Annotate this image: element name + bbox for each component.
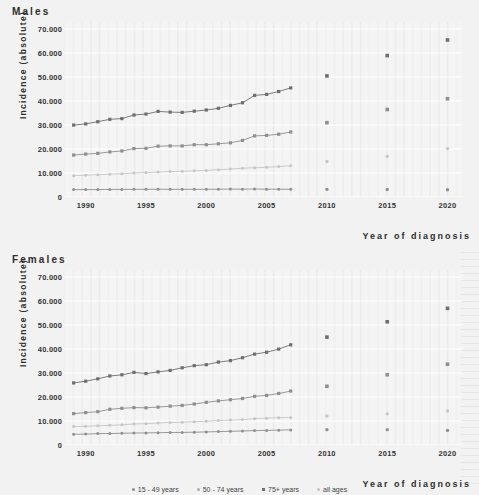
data-point-marker bbox=[446, 362, 450, 366]
x-tick-label: 1990 bbox=[77, 201, 95, 210]
legend-marker-dot-icon bbox=[197, 488, 200, 491]
data-point-marker bbox=[120, 407, 123, 410]
data-point-marker bbox=[156, 370, 159, 373]
data-point-marker bbox=[84, 433, 87, 436]
data-point-marker bbox=[385, 54, 389, 58]
data-point-marker bbox=[217, 430, 220, 433]
data-point-marker bbox=[386, 412, 389, 415]
legend-label: 15 - 49 years bbox=[138, 486, 179, 493]
data-point-marker bbox=[241, 101, 244, 104]
data-point-marker bbox=[265, 417, 268, 420]
data-point-marker bbox=[205, 363, 208, 366]
data-point-marker bbox=[72, 174, 75, 177]
plot-svg-females bbox=[64, 270, 462, 445]
data-point-marker bbox=[241, 356, 244, 359]
data-point-marker bbox=[205, 430, 208, 433]
data-point-marker bbox=[446, 38, 450, 42]
y-tick-label: 30.000 bbox=[6, 369, 62, 378]
data-point-marker bbox=[289, 130, 292, 133]
plot-area-males bbox=[64, 22, 462, 197]
data-point-marker bbox=[84, 411, 87, 414]
data-point-marker bbox=[132, 188, 135, 191]
data-point-marker bbox=[229, 419, 232, 422]
data-point-marker bbox=[169, 111, 172, 114]
legend-marker-dot-icon bbox=[317, 488, 320, 491]
data-point-marker bbox=[253, 166, 256, 169]
data-point-marker bbox=[446, 429, 449, 432]
data-point-marker bbox=[253, 417, 256, 420]
data-point-marker bbox=[96, 173, 99, 176]
data-point-marker bbox=[217, 419, 220, 422]
legend-item[interactable]: 50 - 74 years bbox=[197, 486, 244, 493]
x-tick-label: 2010 bbox=[318, 449, 336, 458]
data-point-marker bbox=[205, 169, 208, 172]
x-tick-label: 2005 bbox=[258, 449, 276, 458]
data-point-marker bbox=[217, 168, 220, 171]
data-point-marker bbox=[265, 188, 268, 191]
data-point-marker bbox=[253, 429, 256, 432]
data-point-marker bbox=[193, 143, 196, 146]
data-point-marker bbox=[265, 166, 268, 169]
data-point-marker bbox=[132, 371, 135, 374]
data-point-marker bbox=[96, 152, 99, 155]
data-point-marker bbox=[108, 424, 111, 427]
data-point-marker bbox=[84, 122, 87, 125]
series-15-49-years bbox=[72, 187, 449, 191]
data-point-marker bbox=[181, 111, 184, 114]
data-point-marker bbox=[265, 134, 268, 137]
data-point-marker bbox=[96, 432, 99, 435]
data-point-marker bbox=[157, 431, 160, 434]
legend-item[interactable]: all ages bbox=[317, 486, 347, 493]
data-point-marker bbox=[446, 97, 450, 101]
data-point-marker bbox=[217, 399, 220, 402]
data-point-marker bbox=[289, 428, 292, 431]
data-point-marker bbox=[446, 307, 450, 311]
data-point-marker bbox=[169, 188, 172, 191]
x-tick-label: 2020 bbox=[439, 201, 457, 210]
data-point-marker bbox=[144, 406, 147, 409]
data-point-marker bbox=[229, 359, 232, 362]
data-point-marker bbox=[241, 188, 244, 191]
data-point-marker bbox=[120, 373, 123, 376]
data-point-marker bbox=[181, 366, 184, 369]
data-point-marker bbox=[181, 144, 184, 147]
data-point-marker bbox=[108, 118, 111, 121]
data-point-marker bbox=[96, 424, 99, 427]
data-point-marker bbox=[277, 188, 280, 191]
data-point-marker bbox=[229, 141, 232, 144]
data-point-marker bbox=[181, 188, 184, 191]
data-point-marker bbox=[169, 431, 172, 434]
data-point-marker bbox=[217, 360, 220, 363]
data-point-marker bbox=[96, 410, 99, 413]
data-point-marker bbox=[277, 90, 280, 93]
data-point-marker bbox=[241, 139, 244, 142]
data-point-marker bbox=[386, 428, 389, 431]
legend-item[interactable]: 75+ years bbox=[262, 486, 299, 493]
data-point-marker bbox=[169, 421, 172, 424]
data-point-marker bbox=[229, 104, 232, 107]
data-point-marker bbox=[325, 384, 329, 388]
data-point-marker bbox=[72, 123, 75, 126]
data-point-marker bbox=[229, 167, 232, 170]
chart-legend: 15 - 49 years50 - 74 years75+ yearsall a… bbox=[0, 486, 479, 493]
data-point-marker bbox=[325, 121, 329, 125]
legend-label: 50 - 74 years bbox=[203, 486, 244, 493]
series-50-74-years bbox=[72, 97, 449, 157]
data-point-marker bbox=[253, 94, 256, 97]
plot-area-females bbox=[64, 270, 462, 445]
data-point-marker bbox=[277, 133, 280, 136]
data-point-marker bbox=[72, 381, 75, 384]
y-tick-label: 60.000 bbox=[6, 297, 62, 306]
data-point-marker bbox=[193, 420, 196, 423]
y-tick-label: 10.000 bbox=[6, 417, 62, 426]
y-tick-label: 50.000 bbox=[6, 73, 62, 82]
data-point-marker bbox=[386, 155, 389, 158]
x-tick-label: 2000 bbox=[197, 201, 215, 210]
legend-item[interactable]: 15 - 49 years bbox=[132, 486, 179, 493]
data-point-marker bbox=[205, 108, 208, 111]
data-point-marker bbox=[446, 188, 449, 191]
y-tick-label: 0 bbox=[6, 441, 62, 450]
data-point-marker bbox=[289, 188, 292, 191]
data-point-marker bbox=[385, 373, 389, 377]
x-tick-label: 2005 bbox=[258, 201, 276, 210]
